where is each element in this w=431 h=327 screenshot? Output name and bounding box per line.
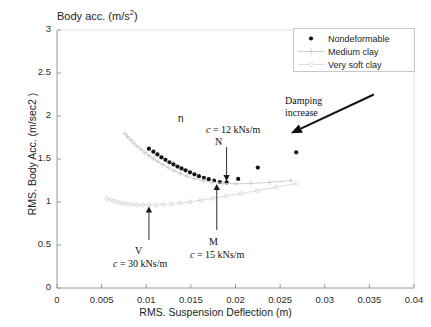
data-point xyxy=(207,177,211,181)
annotation-damping-line1: Damping xyxy=(285,95,322,106)
x-tick-label: 0.04 xyxy=(394,294,431,305)
data-point xyxy=(256,166,260,170)
data-point xyxy=(147,147,151,151)
legend: NondeformableMedium clayVery soft clay xyxy=(293,28,415,72)
annotation-N-arrowhead xyxy=(223,175,229,181)
data-point xyxy=(151,150,155,154)
y-tick-label: 1.5 xyxy=(25,152,51,163)
figure-container: Body acc. (m/s2) RMS. Body Acc. (m/sec2 … xyxy=(0,0,431,327)
y-tick-label: 3 xyxy=(25,23,51,34)
x-tick-label: 0.03 xyxy=(305,294,345,305)
x-tick-label: 0 xyxy=(37,294,77,305)
x-tick-label: 0.015 xyxy=(171,294,211,305)
x-tick-label: 0.035 xyxy=(349,294,389,305)
x-tick-label: 0.01 xyxy=(126,294,166,305)
data-point xyxy=(167,160,171,164)
annotation-M-arrowhead xyxy=(214,184,220,190)
legend-label: Very soft clay xyxy=(328,60,382,70)
annotation-point-V: V xyxy=(135,245,142,256)
annotation-c15: c = 15 kNs/m xyxy=(190,249,244,260)
annotation-c30: c = 30 kNs/m xyxy=(113,258,167,269)
legend-item: Medium clay xyxy=(294,45,414,58)
legend-label: Medium clay xyxy=(328,47,379,57)
x-tick-label: 0.005 xyxy=(82,294,122,305)
data-point xyxy=(294,150,298,154)
y-tick-label: 2 xyxy=(25,109,51,120)
data-point xyxy=(171,162,175,166)
y-tick-label: 1 xyxy=(25,195,51,206)
legend-marker-circle-line-icon xyxy=(294,59,328,70)
data-point xyxy=(179,166,183,170)
y-tick-label: 2.5 xyxy=(25,66,51,77)
annotation-V-arrowhead xyxy=(146,207,152,213)
legend-marker-dot-icon xyxy=(294,33,328,44)
data-point xyxy=(192,172,196,176)
y-tick-label: 0.5 xyxy=(25,238,51,249)
y-tick-label: 0 xyxy=(25,281,51,292)
data-point xyxy=(163,158,167,162)
annotation-c12: c = 12 kNs/m xyxy=(206,124,260,135)
data-point xyxy=(183,168,187,172)
data-point xyxy=(197,174,201,178)
legend-item: Nondeformable xyxy=(294,32,414,45)
data-point xyxy=(159,155,163,159)
x-tick-label: 0.025 xyxy=(260,294,300,305)
x-tick-label: 0.02 xyxy=(216,294,256,305)
x-axis-label: RMS. Suspension Deflection (m) xyxy=(0,306,431,318)
data-point xyxy=(175,164,179,168)
data-point xyxy=(236,177,240,181)
annotation-n: n xyxy=(178,113,184,124)
data-point xyxy=(202,176,206,180)
data-point xyxy=(155,152,159,156)
annotation-point-N: N xyxy=(215,136,222,147)
series-line-medium-clay xyxy=(125,134,291,184)
legend-item: Very soft clay xyxy=(294,58,414,71)
data-point xyxy=(188,170,192,174)
legend-label: Nondeformable xyxy=(328,34,390,44)
annotation-damping-line2: increase xyxy=(285,107,318,118)
annotation-point-M: M xyxy=(209,236,218,247)
legend-marker-plus-icon xyxy=(294,46,328,57)
